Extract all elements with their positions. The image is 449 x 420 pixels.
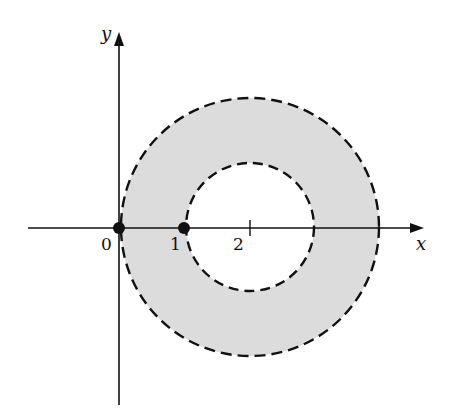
tick-label-0: 0 xyxy=(101,234,112,254)
annulus-diagram: 0 1 2 x y xyxy=(0,0,449,420)
tick-label-1: 1 xyxy=(170,234,181,254)
x-axis-label: x xyxy=(416,233,426,254)
figure-canvas: 0 1 2 x y xyxy=(0,0,449,420)
point-one xyxy=(178,222,190,234)
point-origin xyxy=(113,222,125,234)
tick-label-2: 2 xyxy=(233,234,244,254)
annulus-region xyxy=(0,0,449,420)
y-axis-label: y xyxy=(100,23,112,44)
